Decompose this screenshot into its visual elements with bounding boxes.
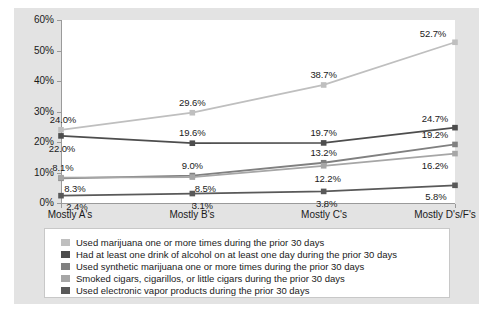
data-label: 12.2%: [314, 172, 340, 183]
x-tick-label: Mostly B's: [169, 209, 214, 220]
data-label: 5.8%: [425, 191, 446, 202]
data-label: 52.7%: [420, 28, 446, 39]
data-label: 3.1%: [192, 199, 213, 210]
chart-screenshot: 0%10%20%30%40%50%60% Mostly A'sMostly B'…: [0, 0, 493, 316]
y-tick: [57, 173, 61, 174]
legend-item[interactable]: Used electronic vapor products during th…: [61, 284, 309, 296]
legend-label: Had at least one drink of alcohol on at …: [76, 249, 397, 260]
x-tick: [455, 204, 456, 208]
x-tick-label: Mostly D's/F's: [414, 209, 476, 220]
y-axis: [61, 20, 62, 204]
data-label: 8.3%: [64, 182, 85, 193]
data-label: 19.2%: [422, 129, 448, 140]
data-label: 9.0%: [182, 159, 203, 170]
y-tick-label: 50%: [18, 45, 54, 56]
data-label: 13.2%: [310, 146, 336, 157]
x-tick: [61, 204, 62, 208]
y-tick: [57, 81, 61, 82]
legend-item[interactable]: Had at least one drink of alcohol on at …: [61, 248, 397, 260]
y-tick-label: 30%: [18, 106, 54, 117]
legend-label: Used marijuana one or more times during …: [76, 237, 324, 248]
legend-swatch-icon: [61, 251, 70, 258]
y-tick-label: 0%: [18, 197, 54, 208]
data-label: 38.7%: [310, 68, 336, 79]
x-tick-label: Mostly C's: [301, 209, 347, 220]
legend-label: Used synthetic marijuana one or more tim…: [76, 261, 364, 272]
plot-area: [61, 20, 455, 203]
y-tick: [57, 20, 61, 21]
y-tick-label: 40%: [18, 75, 54, 86]
data-label: 2.4%: [66, 200, 87, 211]
data-label: 8.5%: [195, 183, 216, 194]
legend-swatch-icon: [61, 275, 70, 282]
legend-swatch-icon: [61, 287, 70, 294]
legend-item[interactable]: Used synthetic marijuana one or more tim…: [61, 260, 364, 272]
legend-item[interactable]: Used marijuana one or more times during …: [61, 236, 324, 248]
x-axis: [61, 203, 455, 204]
data-label: 24.7%: [422, 112, 448, 123]
data-label: 19.6%: [179, 127, 205, 138]
data-label: 22.0%: [49, 142, 75, 153]
data-label: 19.7%: [310, 126, 336, 137]
chart-legend: Used marijuana one or more times during …: [44, 228, 450, 298]
data-label: 3.8%: [316, 198, 337, 209]
data-label: 8.1%: [52, 162, 73, 173]
y-tick: [57, 51, 61, 52]
legend-label: Used electronic vapor products during th…: [76, 285, 309, 296]
y-tick-label: 10%: [18, 167, 54, 178]
data-label: 29.6%: [179, 96, 205, 107]
legend-swatch-icon: [61, 239, 70, 246]
data-label: 16.2%: [422, 159, 448, 170]
data-label: 24.0%: [50, 113, 76, 124]
y-tick-label: 60%: [18, 14, 54, 25]
legend-label: Smoked cigars, cigarillos, or little cig…: [76, 273, 345, 284]
legend-swatch-icon: [61, 263, 70, 270]
legend-item[interactable]: Smoked cigars, cigarillos, or little cig…: [61, 272, 345, 284]
